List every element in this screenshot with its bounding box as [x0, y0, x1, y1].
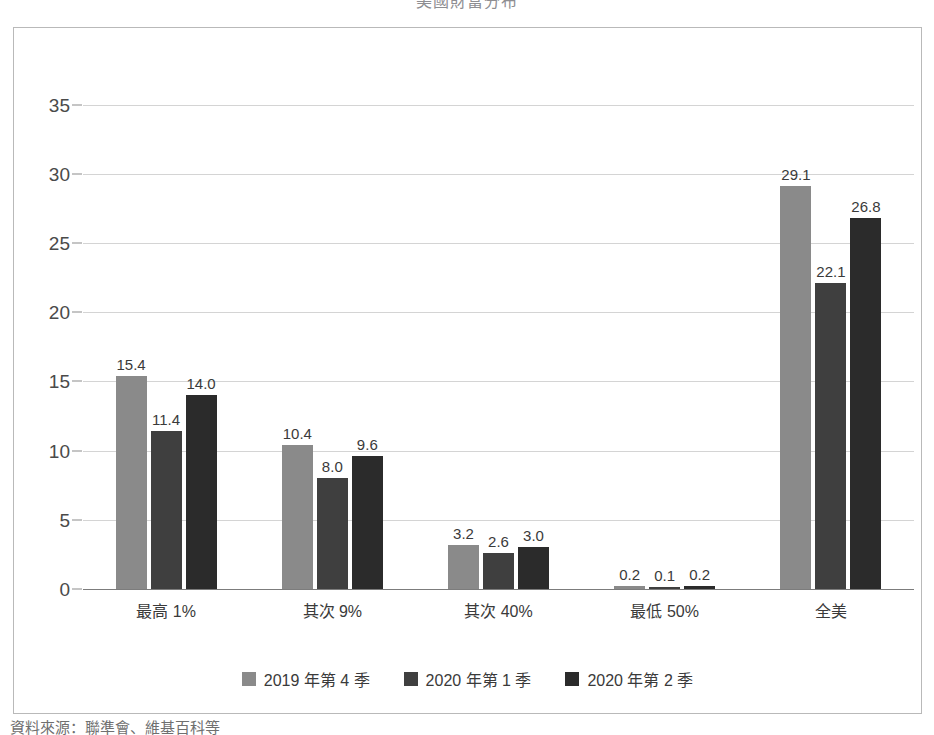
y-axis-label: 0: [59, 580, 70, 599]
bar-group: 29.122.126.8全美: [780, 70, 881, 589]
plot-area: 0510152025303515.411.414.0最高 1%10.48.09.…: [83, 70, 914, 589]
y-axis-label: 20: [49, 303, 70, 322]
bar-group: 15.411.414.0最高 1%: [116, 70, 217, 589]
y-axis-tick: [72, 519, 82, 520]
bar-value-label: 26.8: [851, 199, 880, 214]
y-axis-tick: [72, 450, 82, 451]
bar[interactable]: 3.2: [448, 545, 479, 589]
legend-label: 2019 年第 4 季: [264, 667, 370, 691]
bar-value-label: 0.2: [619, 567, 640, 582]
bar[interactable]: 0.1: [649, 587, 680, 589]
bar[interactable]: 11.4: [151, 431, 182, 589]
legend-label: 2020 年第 1 季: [426, 667, 532, 691]
bar-value-label: 14.0: [186, 376, 215, 391]
x-axis-category-label: 其次 9%: [303, 604, 363, 620]
bar[interactable]: 22.1: [815, 283, 846, 589]
bar[interactable]: 26.8: [850, 218, 881, 589]
legend-item[interactable]: 2019 年第 4 季: [242, 667, 370, 691]
bar-value-label: 10.4: [283, 426, 312, 441]
y-axis-label: 35: [49, 95, 70, 114]
bar[interactable]: 9.6: [352, 456, 383, 589]
y-axis-label: 10: [49, 441, 70, 460]
bar-value-label: 11.4: [152, 412, 180, 427]
legend-item[interactable]: 2020 年第 1 季: [404, 667, 532, 691]
y-axis-tick: [72, 104, 82, 105]
bar-group: 0.20.10.2最低 50%: [614, 70, 715, 589]
bar[interactable]: 0.2: [684, 586, 715, 589]
bar-value-label: 29.1: [781, 167, 810, 182]
bar-group: 3.22.63.0其次 40%: [448, 70, 549, 589]
y-axis-tick: [72, 312, 82, 313]
bar-value-label: 0.1: [654, 568, 675, 583]
y-axis-tick: [72, 381, 82, 382]
y-axis-tick: [72, 243, 82, 244]
chart-title: 美國財富分布: [0, 0, 934, 9]
x-axis-category-label: 最低 50%: [630, 604, 698, 620]
chart-frame: 0510152025303515.411.414.0最高 1%10.48.09.…: [13, 27, 922, 714]
x-axis-category-label: 其次 40%: [464, 604, 532, 620]
bar-value-label: 3.2: [453, 526, 474, 541]
y-axis-label: 30: [49, 164, 70, 183]
x-axis-category-label: 全美: [815, 604, 847, 620]
bar[interactable]: 2.6: [483, 553, 514, 589]
bar-value-label: 8.0: [322, 459, 343, 474]
bar[interactable]: 15.4: [116, 376, 147, 589]
axis-baseline: [83, 589, 914, 590]
bar-value-label: 22.1: [816, 264, 845, 279]
bar-value-label: 9.6: [357, 437, 378, 452]
bar-value-label: 15.4: [116, 357, 145, 372]
y-axis-label: 5: [59, 510, 70, 529]
bar[interactable]: 3.0: [518, 547, 549, 589]
bar-value-label: 0.2: [689, 567, 710, 582]
chart-footnote: 資料來源：聯準會、維基百科等: [10, 719, 220, 735]
y-axis-tick: [72, 173, 82, 174]
footnote-clip: 資料來源：聯準會、維基百科等: [0, 719, 934, 735]
bar[interactable]: 8.0: [317, 478, 348, 589]
bar[interactable]: 29.1: [780, 186, 811, 589]
bar[interactable]: 0.2: [614, 586, 645, 589]
chart-legend: 2019 年第 4 季2020 年第 1 季2020 年第 2 季: [14, 667, 921, 691]
chart-title-clip: 美國財富分布: [0, 0, 934, 9]
legend-item[interactable]: 2020 年第 2 季: [565, 667, 693, 691]
bar-group: 10.48.09.6其次 9%: [282, 70, 383, 589]
y-axis-label: 25: [49, 234, 70, 253]
bar[interactable]: 10.4: [282, 445, 313, 589]
legend-swatch-icon: [242, 672, 256, 686]
legend-swatch-icon: [404, 672, 418, 686]
bar-value-label: 3.0: [523, 528, 544, 543]
legend-swatch-icon: [565, 672, 579, 686]
bar[interactable]: 14.0: [186, 395, 217, 589]
y-axis-tick: [72, 589, 82, 590]
y-axis-label: 15: [49, 372, 70, 391]
bar-value-label: 2.6: [488, 534, 509, 549]
x-axis-category-label: 最高 1%: [136, 604, 196, 620]
legend-label: 2020 年第 2 季: [587, 667, 693, 691]
